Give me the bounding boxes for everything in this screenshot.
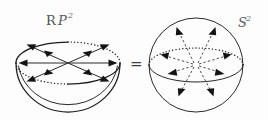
arrowhead-west [19,60,28,67]
arrow-shaft [198,32,213,63]
arrow-shaft [179,32,194,63]
italic-p-symbol: P [57,13,67,28]
arrowhead-east [109,60,118,67]
right-figure-label: S 2 [238,14,251,30]
math-figure-diagram: R P 2 [0,0,268,120]
left-figure-label: R P 2 [46,11,73,28]
equality-sign: = [130,55,143,73]
sphere-arrow-equator-east-upper [199,53,232,64]
sphere-arrow-equator-west-lower [168,66,194,76]
figure-canvas: R P 2 [0,0,268,120]
sphere-arrow-north-west [176,27,194,63]
hemisphere-bowl-shape [16,42,120,112]
arrowhead-left-upper [161,53,170,60]
arrowhead-down-left [178,88,186,96]
arrowhead-right-lower [215,69,225,76]
left-superscript-two: 2 [67,11,73,20]
arrow-shaft [181,67,194,91]
arrowhead-up-left [176,27,184,35]
equator-arc-back [149,48,243,65]
arrowhead-left-lower [168,69,178,76]
arrow-shaft [198,67,211,91]
sphere-shape [149,18,243,112]
arrowhead-right-upper [223,53,232,60]
arrowhead-down-right [207,88,215,96]
equator-arc-front [149,65,243,82]
arrow-shaft [199,56,226,64]
sphere-arrow-north-east [198,27,216,63]
arrowhead-up-right [209,27,217,35]
sphere-arrow-equator-east-lower [199,66,225,76]
right-superscript-two: 2 [245,14,251,23]
blackboard-r-symbol: R [46,13,57,28]
arrow-shaft [166,56,193,64]
sphere-arrow-equator-west-upper [161,53,194,64]
sphere-outline [149,18,243,112]
